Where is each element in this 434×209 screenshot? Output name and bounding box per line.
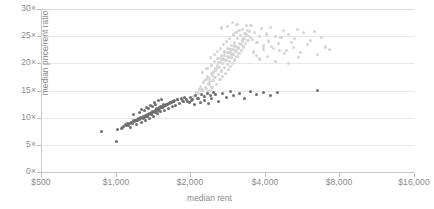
scatter-point — [265, 32, 268, 35]
y-tick-label-5: 5× — [2, 139, 36, 149]
x-tick-label-16000: $16,000 — [374, 177, 434, 187]
gridline-y-0 — [41, 172, 414, 173]
scatter-point — [222, 58, 225, 61]
scatter-point — [211, 79, 214, 82]
scatter-point — [224, 72, 227, 75]
scatter-point — [252, 50, 255, 53]
scatter-point — [225, 96, 228, 99]
y-tick-label-15: 15× — [2, 85, 36, 95]
scatter-point — [218, 78, 221, 81]
gridline-y-15 — [41, 91, 414, 92]
x-tick-label-1000: $1,000 — [76, 177, 156, 187]
scatter-point — [237, 52, 240, 55]
scatter-point — [217, 100, 220, 103]
scatter-point — [238, 92, 241, 95]
scatter-point — [235, 45, 238, 48]
scatter-point — [216, 57, 219, 60]
scatter-point — [313, 30, 316, 33]
scatter-point — [160, 98, 163, 101]
scatter-point — [207, 102, 210, 105]
scatter-point — [267, 39, 270, 42]
y-tick-label-20: 20× — [2, 57, 36, 67]
scatter-point — [205, 67, 208, 70]
scatter-point — [242, 45, 245, 48]
scatter-point — [130, 121, 133, 124]
y-axis-title: median price/rent ratio — [40, 3, 50, 103]
scatter-point — [212, 70, 215, 73]
scatter-point — [226, 55, 229, 58]
scatter-point — [193, 103, 196, 106]
y-tick-label-0: 0× — [2, 166, 36, 176]
scatter-point — [229, 51, 232, 54]
scatter-point — [316, 89, 319, 92]
scatter-point — [163, 109, 166, 112]
scatter-point — [241, 28, 244, 31]
scatter-point — [210, 63, 213, 66]
scatter-point — [220, 54, 223, 57]
scatter-point — [172, 100, 175, 103]
scatter-point — [251, 38, 254, 41]
scatter-point — [176, 98, 179, 101]
y-tick-mark-5 — [37, 145, 41, 146]
scatter-point — [290, 41, 293, 44]
scatter-point — [269, 94, 272, 97]
x-tick-label-500: $500 — [1, 177, 81, 187]
gridline-y-5 — [41, 145, 414, 146]
x-tick-label-2000: $2,000 — [150, 177, 230, 187]
scatter-point — [249, 24, 252, 27]
scatter-point — [219, 47, 222, 50]
scatter-point — [211, 74, 214, 77]
scatter-point — [249, 90, 252, 93]
scatter-point — [262, 48, 265, 51]
scatter-point — [232, 33, 235, 36]
scatter-point — [226, 47, 229, 50]
scatter-point — [144, 114, 147, 117]
scatter-point — [243, 32, 246, 35]
scatter-point — [151, 105, 154, 108]
scatter-point — [203, 99, 206, 102]
scatter-point — [148, 112, 151, 115]
scatter-point — [213, 76, 216, 79]
scatter-point — [246, 29, 249, 32]
scatter-point — [246, 39, 249, 42]
scatter-point — [171, 105, 174, 108]
x-tick-label-4000: $4,000 — [225, 177, 305, 187]
scatter-point — [241, 38, 244, 41]
scatter-point — [230, 44, 233, 47]
scatter-point — [255, 41, 258, 44]
scatter-point — [217, 73, 220, 76]
scatter-point — [143, 109, 146, 112]
y-tick-label-10: 10× — [2, 112, 36, 122]
scatter-point — [138, 111, 141, 114]
scatter-point — [276, 91, 279, 94]
x-tick-label-8000: $8,000 — [299, 177, 379, 187]
scatter-point — [238, 42, 241, 45]
gridline-y-30 — [41, 9, 414, 10]
scatter-point — [255, 54, 258, 57]
y-tick-mark-10 — [37, 118, 41, 119]
scatter-point — [198, 88, 201, 91]
scatter-point — [229, 90, 232, 93]
scatter-point — [233, 41, 236, 44]
scatter-point — [178, 102, 181, 105]
scatter-point — [213, 53, 216, 56]
y-tick-label-30: 30× — [2, 3, 36, 13]
scatter-point — [235, 23, 238, 26]
scatter-point — [240, 49, 243, 52]
scatter-point — [167, 107, 170, 110]
scatter-point — [274, 60, 277, 63]
scatter-point — [283, 52, 286, 55]
scatter-point — [220, 69, 223, 72]
scatter-point — [216, 64, 219, 67]
scatter-point — [220, 26, 223, 29]
scatter-point — [154, 111, 157, 114]
x-axis-title: median rent — [0, 193, 419, 203]
gridline-y-10 — [41, 118, 414, 119]
scatter-point — [210, 97, 213, 100]
scatter-point — [147, 107, 150, 110]
scatter-point — [140, 121, 143, 124]
y-tick-label-25: 25× — [2, 30, 36, 40]
scatter-point — [226, 25, 229, 28]
scatter-point — [135, 123, 138, 126]
